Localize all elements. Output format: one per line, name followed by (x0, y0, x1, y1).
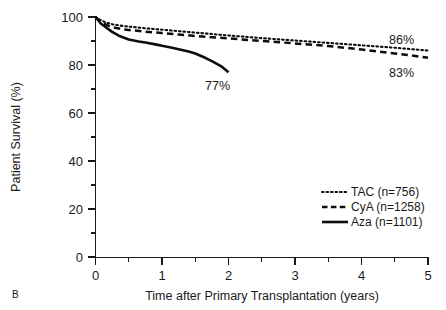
y-tick-label-0: 0 (76, 250, 83, 265)
annotation-cya-83: 83% (389, 66, 414, 80)
series-group (96, 17, 429, 72)
survival-chart-figure: 100 80 60 40 20 0 0 1 2 3 4 (0, 0, 446, 310)
legend-label-cya: CyA (n=1258) (351, 200, 425, 214)
y-tick-label-60: 60 (69, 106, 83, 121)
x-tick-label-0: 0 (92, 268, 99, 283)
annotation-aza-77: 77% (205, 79, 230, 93)
y-tick-label-20: 20 (69, 202, 83, 217)
series-line-tac (96, 17, 429, 51)
annotation-tac-86: 86% (389, 33, 414, 47)
chart-canvas: 100 80 60 40 20 0 0 1 2 3 4 (0, 0, 446, 310)
x-tick-label-3: 3 (291, 268, 298, 283)
y-axis-ticks (88, 17, 96, 257)
legend-label-aza: Aza (n=1101) (351, 215, 423, 229)
y-tick-label-80: 80 (69, 58, 83, 73)
x-axis-tick-labels: 0 1 2 3 4 5 (92, 268, 432, 283)
y-tick-label-100: 100 (61, 10, 83, 25)
x-axis-title: Time after Primary Transplantation (year… (145, 289, 379, 303)
y-tick-label-40: 40 (69, 154, 83, 169)
x-axis-ticks (96, 257, 429, 265)
x-tick-label-1: 1 (158, 268, 165, 283)
legend: TAC (n=756) CyA (n=1258) Aza (n=1101) (322, 185, 425, 229)
legend-label-tac: TAC (n=756) (351, 185, 419, 199)
x-tick-label-2: 2 (225, 268, 232, 283)
x-tick-label-4: 4 (358, 268, 365, 283)
panel-label: B (12, 289, 19, 300)
x-tick-label-5: 5 (424, 268, 431, 283)
y-axis-tick-labels: 100 80 60 40 20 0 (61, 10, 83, 265)
y-axis-title: Patient Survival (%) (9, 82, 23, 192)
